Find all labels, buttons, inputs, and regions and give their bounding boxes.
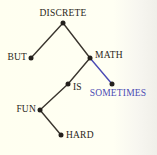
node-dot-fun[interactable] — [38, 108, 43, 113]
node-label-is: IS — [73, 83, 82, 93]
node-dot-but[interactable] — [29, 56, 34, 61]
edge-math-sometimes — [90, 58, 112, 84]
node-dot-math[interactable] — [88, 56, 93, 61]
node-label-but: BUT — [7, 53, 27, 63]
node-label-discrete: DISCRETE — [40, 9, 87, 19]
node-dot-hard[interactable] — [59, 133, 64, 138]
node-dot-sometimes[interactable] — [110, 82, 115, 87]
edge-math-is — [68, 58, 90, 84]
edge-discrete-but — [31, 23, 63, 58]
node-dot-is[interactable] — [66, 82, 71, 87]
edge-fun-hard — [40, 110, 61, 135]
edge-discrete-math — [63, 23, 90, 58]
tree-diagram: DISCRETEBUTMATHISSOMETIMESFUNHARD — [0, 0, 157, 155]
node-label-hard: HARD — [66, 131, 94, 141]
node-label-fun: FUN — [16, 105, 36, 115]
node-label-math: MATH — [95, 51, 123, 61]
edge-is-fun — [40, 84, 68, 110]
edges-group — [31, 23, 112, 135]
node-dot-discrete[interactable] — [61, 21, 66, 26]
node-label-sometimes: SOMETIMES — [90, 89, 147, 99]
